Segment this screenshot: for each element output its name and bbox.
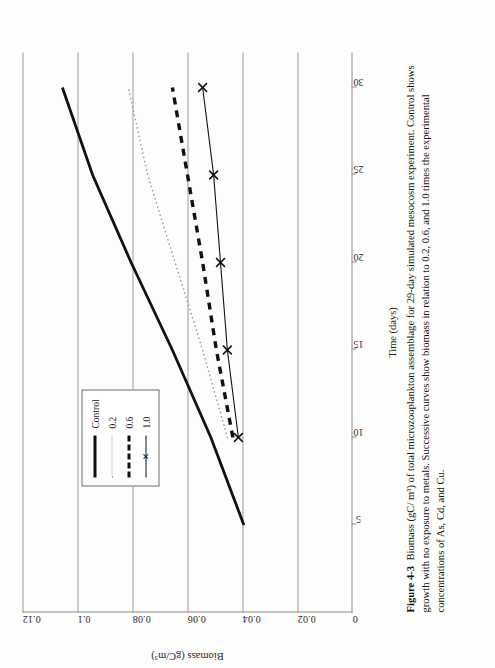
legend-swatch-dashed-line-icon <box>123 435 134 477</box>
legend-swatch-cross-marker-icon <box>140 435 151 477</box>
legend-label: Control <box>90 399 100 428</box>
legend-label: 0.6 <box>124 416 134 428</box>
legend-label: 1.0 <box>141 416 151 428</box>
x-tick-label: 30 <box>353 76 363 87</box>
chart-series-0-2 <box>128 87 227 437</box>
x-tick-label: 20 <box>353 251 363 262</box>
chart-canvas: 51015202530 00.020.040.060.080.10.12 <box>22 52 352 612</box>
legend-swatch-solid-line-icon <box>89 435 100 477</box>
rotated-figure-stage: 51015202530 00.020.040.060.080.10.12 Bio… <box>0 0 495 668</box>
chart-marker-cross-icon <box>198 83 207 92</box>
chart-plot-area: 51015202530 00.020.040.060.080.10.12 Bio… <box>22 52 352 612</box>
legend-swatch-dotted-line-icon <box>106 435 117 477</box>
legend-item-1-0: 1.0 <box>139 399 152 477</box>
y-tick-label: 0.02 <box>297 614 315 625</box>
y-tick-label: 0 <box>352 614 357 625</box>
x-axis-title: Time (days) <box>386 307 397 358</box>
chart-legend: Control 0.2 0.6 1.0 <box>81 389 159 486</box>
legend-label: 0.2 <box>107 416 117 428</box>
chart-series-0-6 <box>172 87 233 437</box>
x-tick-label: 10 <box>353 426 363 437</box>
y-tick-label: 0.12 <box>22 614 40 625</box>
y-tick-label: 0.04 <box>242 614 260 625</box>
x-tick-label: 25 <box>353 164 363 175</box>
scanned-page: 51015202530 00.020.040.060.080.10.12 Bio… <box>0 0 495 668</box>
figure-container: 51015202530 00.020.040.060.080.10.12 Bio… <box>0 0 495 668</box>
chart-series-layer <box>22 52 352 612</box>
legend-item-0-2: 0.2 <box>105 399 118 477</box>
y-tick-label: 0.08 <box>132 614 150 625</box>
figure-caption-text: Biomass (gC/ m³) of total microzooplankt… <box>404 65 445 612</box>
y-tick-label: 0.1 <box>77 614 90 625</box>
y-tick-label: 0.06 <box>187 614 205 625</box>
figure-caption-label: Figure 4-3 <box>404 565 415 612</box>
legend-item-control: Control <box>88 399 101 477</box>
x-tick-label: 15 <box>353 339 363 350</box>
legend-item-0-6: 0.6 <box>122 399 135 477</box>
y-axis-title: Biomass (gC/m³) <box>151 651 223 662</box>
figure-caption: Figure 4-3 Biomass (gC/ m³) of total mic… <box>402 56 447 612</box>
x-tick-label: 5 <box>356 514 361 525</box>
